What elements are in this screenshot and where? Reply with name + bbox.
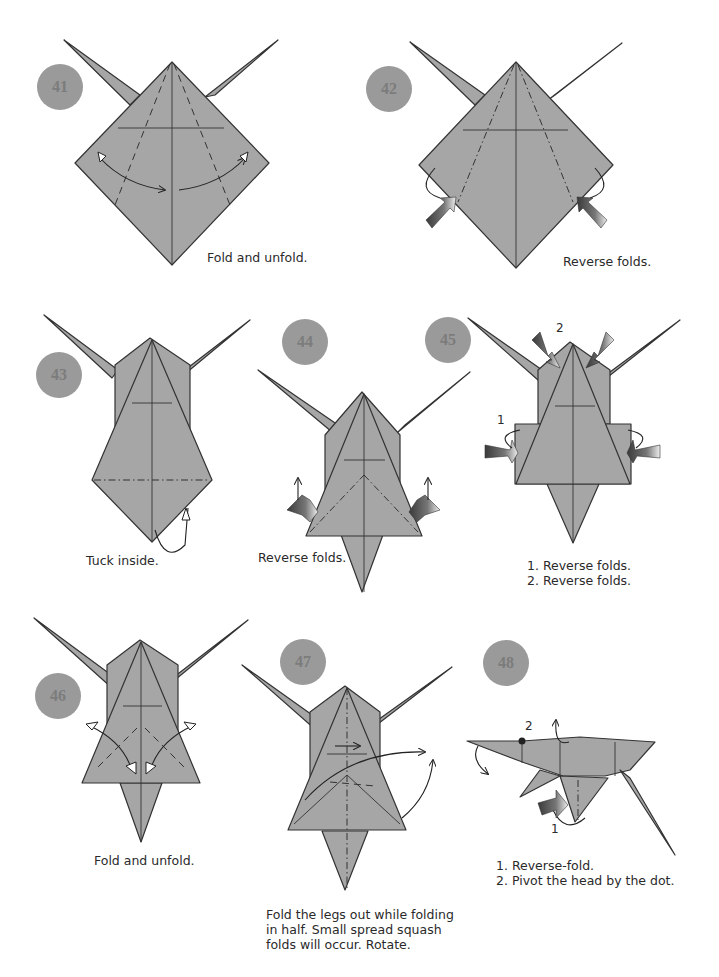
- step-caption: 1. Reverse folds. 2. Reverse folds.: [527, 558, 631, 588]
- step-48: 48 2 1 1. Reverse-fold. 2. Pivot the hea…: [460, 600, 719, 920]
- step-45: 45 2 1 1. Reverse folds. 2. Reverse fold…: [460, 290, 719, 590]
- push-arrow-icon: [426, 197, 456, 228]
- step-caption: Fold the legs out while folding in half.…: [266, 907, 454, 952]
- step-caption: Fold and unfold.: [94, 853, 195, 868]
- step-47: 47 Fold the legs out while folding in ha…: [230, 600, 470, 977]
- pivot-dot-icon: [519, 738, 526, 745]
- push-arrow-icon: [577, 197, 607, 228]
- step-label-1: 1: [551, 822, 559, 836]
- fold-diagram: [0, 600, 260, 880]
- push-arrow-icon: [485, 440, 518, 463]
- step-46: 46 Fold and unfold.: [0, 600, 260, 880]
- step-43: 43 Tuck inside.: [0, 290, 250, 590]
- fold-diagram: 2 1: [460, 290, 719, 590]
- step-label-2: 2: [556, 321, 564, 335]
- step-caption: Tuck inside.: [86, 553, 159, 568]
- push-arrow-icon: [627, 440, 660, 463]
- step-label-2: 2: [525, 719, 533, 733]
- step-label-1: 1: [497, 413, 505, 427]
- step-caption: Reverse folds.: [258, 550, 346, 565]
- fold-diagram: [0, 290, 250, 590]
- step-caption: 1. Reverse-fold. 2. Pivot the head by th…: [496, 858, 674, 888]
- push-arrow-icon: [538, 790, 568, 818]
- fold-diagram: [0, 0, 360, 280]
- step-caption: Fold and unfold.: [207, 250, 308, 265]
- step-caption: Reverse folds.: [563, 254, 651, 269]
- step-42: 42 Reverse folds.: [360, 0, 719, 280]
- fold-diagram: [360, 0, 719, 280]
- step-41: 41 Fold and unfold.: [0, 0, 360, 280]
- push-arrow-icon: [287, 495, 318, 522]
- push-arrow-icon: [409, 495, 440, 522]
